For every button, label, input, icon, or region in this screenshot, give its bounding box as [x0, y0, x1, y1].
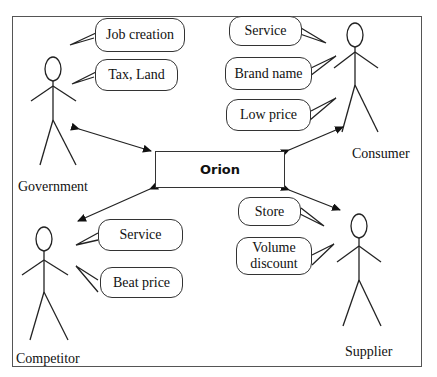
actor-label-government: Government: [18, 179, 88, 195]
actor-label-consumer: Consumer: [352, 146, 410, 162]
bubble-low-price: Low price: [226, 99, 311, 131]
bubble-beat-price: Beat price: [100, 267, 183, 298]
bubble-brand-name: Brand name: [225, 57, 312, 90]
bubble-service-competitor: Service: [98, 219, 183, 251]
orion-node: Orion: [155, 151, 285, 188]
bubble-job-creation: Job creation: [95, 18, 185, 52]
bubble-tax-land: Tax, Land: [95, 59, 178, 91]
actor-label-competitor: Competitor: [16, 351, 80, 367]
bubble-volume-line: Volume: [252, 240, 295, 256]
actor-label-supplier: Supplier: [345, 344, 392, 360]
bubble-store: Store: [238, 197, 301, 226]
bubble-discount-line: discount: [250, 256, 297, 272]
bubble-volume-discount: Volume discount: [236, 237, 312, 275]
bubble-service-consumer: Service: [229, 16, 302, 46]
